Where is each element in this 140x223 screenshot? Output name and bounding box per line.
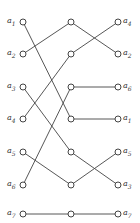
node-circle [68,51,74,57]
left-label: a2 [7,49,16,60]
node-circle [68,182,74,188]
node-circle [20,149,26,155]
edge-left-middle [23,22,71,54]
edge-left-middle [23,87,71,152]
node-circle [20,182,26,188]
left-label: a4 [7,114,16,125]
left-label: a3 [7,82,16,93]
right-label: a3 [123,180,132,191]
permutation-network [0,0,140,223]
right-label: a2 [123,49,132,60]
right-label: a6 [123,82,132,93]
node-circle [20,19,26,25]
node-circle [115,149,121,155]
node-circle [20,116,26,122]
node-circle [115,51,121,57]
node-circle [20,84,26,90]
left-label: a5 [7,147,16,158]
edge-left-middle [23,87,71,185]
edge-left-middle [23,22,71,119]
left-label: a7 [7,209,16,220]
node-circle [115,19,121,25]
node-circle [68,19,74,25]
node-circle [20,51,26,57]
node-circle [68,116,74,122]
node-circle [115,211,121,217]
left-label: a6 [7,180,16,191]
node-circle [68,84,74,90]
node-circle [115,84,121,90]
edge-left-middle [23,152,71,185]
right-label: a7 [123,209,132,220]
node-circle [115,182,121,188]
node-circle [115,116,121,122]
right-label: a5 [123,147,132,158]
left-label: a1 [7,17,16,28]
edge-left-middle [23,54,71,119]
node-circle [68,211,74,217]
node-circle [20,211,26,217]
right-label: a4 [123,17,132,28]
right-label: a1 [123,114,132,125]
node-circle [68,149,74,155]
